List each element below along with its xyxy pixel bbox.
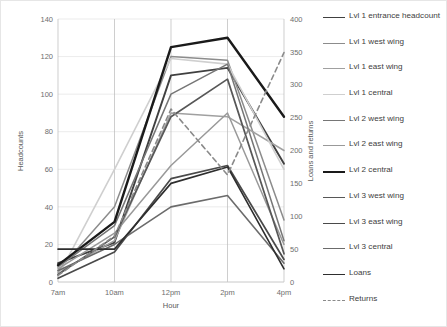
y-tick-label: 20 xyxy=(45,240,53,249)
legend-swatch-icon xyxy=(323,166,345,178)
y2-axis-tick-labels: 050100150200250300350400 xyxy=(290,15,303,287)
y2-tick-label: 350 xyxy=(290,48,303,57)
y2-tick-label: 100 xyxy=(290,212,303,221)
x-tick-label: 2pm xyxy=(220,288,235,297)
y-tick-label: 120 xyxy=(40,52,53,61)
legend-item-label: Lvl 3 west wing xyxy=(349,191,404,201)
y-tick-label: 140 xyxy=(40,15,53,24)
legend-item[interactable]: Returns xyxy=(323,294,447,320)
legend-item-label: Returns xyxy=(349,294,377,304)
chart-frame: 020406080100120140 050100150200250300350… xyxy=(0,0,447,327)
y2-tick-label: 400 xyxy=(290,15,303,24)
legend-swatch-icon xyxy=(323,295,345,307)
y2-tick-label: 150 xyxy=(290,179,303,188)
legend-item[interactable]: Lvl 1 entrance headcount xyxy=(323,11,447,37)
y2-tick-label: 50 xyxy=(290,245,298,254)
x-axis-title: Hour xyxy=(163,301,180,310)
legend-item-label: Lvl 1 central xyxy=(349,88,393,98)
chart-legend: Lvl 1 entrance headcountLvl 1 west wingL… xyxy=(323,11,447,321)
legend-item-label: Lvl 3 east wing xyxy=(349,217,403,227)
legend-item-label: Loans xyxy=(349,268,371,278)
y2-axis-title: Loans and returns xyxy=(306,121,315,182)
legend-item-label: Lvl 2 west wing xyxy=(349,114,404,124)
legend-swatch-icon xyxy=(323,218,345,230)
x-tick-label: 10am xyxy=(105,288,124,297)
y2-tick-label: 0 xyxy=(290,278,294,287)
legend-item[interactable]: Lvl 3 west wing xyxy=(323,191,447,217)
legend-item-label: Lvl 3 central xyxy=(349,242,393,252)
plot-area: 020406080100120140 050100150200250300350… xyxy=(1,1,321,327)
y-axis-tick-labels: 020406080100120140 xyxy=(40,15,53,287)
legend-item-label: Lvl 2 central xyxy=(349,165,393,175)
y-tick-label: 0 xyxy=(49,278,53,287)
legend-item[interactable]: Lvl 2 east wing xyxy=(323,139,447,165)
x-axis-tick-labels: 7am10am12pm2pm4pm xyxy=(51,288,292,297)
legend-item-label: Lvl 1 east wing xyxy=(349,62,403,72)
legend-swatch-icon xyxy=(323,38,345,50)
legend-swatch-icon xyxy=(323,12,345,24)
x-tick-label: 7am xyxy=(51,288,66,297)
y2-tick-label: 300 xyxy=(290,80,303,89)
legend-item-label: Lvl 2 east wing xyxy=(349,139,403,149)
y2-tick-label: 250 xyxy=(290,113,303,122)
y-axis-title: Headcounts xyxy=(16,131,25,171)
legend-item[interactable]: Lvl 2 west wing xyxy=(323,114,447,140)
legend-item[interactable]: Lvl 2 central xyxy=(323,165,447,191)
legend-item[interactable]: Lvl 1 east wing xyxy=(323,62,447,88)
legend-item[interactable]: Loans xyxy=(323,268,447,294)
y-tick-label: 60 xyxy=(45,165,53,174)
y-tick-label: 80 xyxy=(45,127,53,136)
legend-swatch-icon xyxy=(323,243,345,255)
legend-swatch-icon xyxy=(323,192,345,204)
legend-item-label: Lvl 1 entrance headcount xyxy=(349,11,440,21)
y-tick-label: 100 xyxy=(40,90,53,99)
legend-item[interactable]: Lvl 1 west wing xyxy=(323,37,447,63)
legend-swatch-icon xyxy=(323,63,345,75)
legend-swatch-icon xyxy=(323,115,345,127)
legend-swatch-icon xyxy=(323,89,345,101)
legend-swatch-icon xyxy=(323,140,345,152)
legend-item[interactable]: Lvl 3 central xyxy=(323,242,447,268)
legend-swatch-icon xyxy=(323,269,345,281)
legend-item-label: Lvl 1 west wing xyxy=(349,37,404,47)
x-tick-label: 12pm xyxy=(162,288,181,297)
x-tick-label: 4pm xyxy=(277,288,292,297)
legend-item[interactable]: Lvl 1 central xyxy=(323,88,447,114)
legend-item[interactable]: Lvl 3 east wing xyxy=(323,217,447,243)
y-tick-label: 40 xyxy=(45,203,53,212)
y2-tick-label: 200 xyxy=(290,146,303,155)
line-chart-svg: 020406080100120140 050100150200250300350… xyxy=(1,1,321,327)
